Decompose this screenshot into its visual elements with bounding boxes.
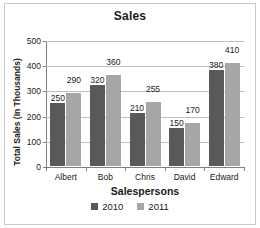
bar-value-label: 360	[101, 57, 126, 67]
x-axis-title: Salespersons	[40, 185, 250, 197]
x-tick-mark	[204, 167, 205, 171]
sales-bar-chart: Sales Total Sales (In Thousands) 0100200…	[0, 0, 260, 228]
bar	[169, 128, 184, 166]
x-tick-mark	[46, 167, 47, 171]
legend-item[interactable]: 2010	[91, 201, 123, 212]
y-tick-label: 0	[36, 162, 41, 172]
bar	[185, 123, 200, 166]
x-axis-line	[46, 167, 244, 168]
chart-legend: 20102011	[0, 201, 260, 212]
bar-group: 210255	[130, 40, 161, 166]
legend-swatch-icon	[137, 203, 144, 210]
bar-group: 150170	[169, 40, 200, 166]
bar-group: 250290	[50, 40, 81, 166]
y-tick-label: 200	[27, 112, 41, 122]
y-tick-mark	[43, 142, 46, 143]
category-label: Edward	[194, 172, 254, 182]
bar-value-label: 410	[220, 45, 245, 55]
bar	[130, 113, 145, 166]
x-tick-mark	[244, 167, 245, 171]
legend-item[interactable]: 2011	[137, 201, 168, 212]
y-axis-line	[46, 41, 47, 168]
y-axis-title: Total Sales (In Thousands)	[12, 42, 22, 182]
y-tick-label: 400	[27, 61, 41, 71]
y-tick-mark	[43, 66, 46, 67]
bar	[106, 75, 121, 166]
bar	[146, 102, 161, 166]
bar	[225, 63, 240, 166]
bar-group: 380410	[209, 40, 240, 166]
legend-label: 2010	[102, 201, 123, 212]
bar-value-label: 255	[141, 84, 166, 94]
y-tick-mark	[43, 41, 46, 42]
bar-value-label: 170	[180, 105, 205, 115]
bar-group: 320360	[90, 40, 121, 166]
bar	[209, 70, 224, 166]
bar	[50, 103, 65, 166]
bar	[90, 85, 105, 166]
legend-swatch-icon	[91, 203, 98, 210]
x-tick-mark	[165, 167, 166, 171]
bar	[66, 93, 81, 166]
y-tick-label: 100	[27, 137, 41, 147]
y-tick-label: 300	[27, 86, 41, 96]
y-tick-mark	[43, 117, 46, 118]
y-tick-label: 500	[27, 36, 41, 46]
chart-title: Sales	[0, 9, 260, 23]
x-tick-mark	[86, 167, 87, 171]
plot-area: 0100200300400500 25029032036021025515017…	[46, 41, 244, 167]
x-tick-mark	[125, 167, 126, 171]
bar-value-label: 290	[61, 75, 86, 85]
legend-label: 2011	[148, 201, 168, 212]
